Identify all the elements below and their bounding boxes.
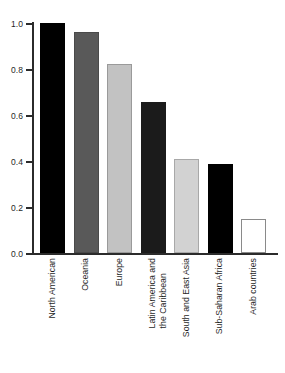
x-axis-label: Arab countries [248,258,259,315]
bar [208,164,233,253]
y-axis-tick: 0.2 [26,207,33,209]
x-axis-line [33,253,278,255]
y-axis-tick-label: 0.8 [11,66,23,75]
y-axis-tick-label: 0.4 [11,158,23,167]
bar [107,64,132,253]
bar [141,102,166,253]
bar [40,23,65,253]
bar [74,32,99,253]
x-axis-label: South and East Asia [181,258,192,337]
y-axis-tick: 0.6 [26,115,33,117]
y-axis-tick: 0.4 [26,161,33,163]
y-axis-tick: 0.0 [26,253,33,255]
bar-chart-figure: 1.00.80.60.40.20.0 North AmericanOceania… [0,0,285,373]
x-axis-label: Europe [114,258,125,286]
x-axis-label: Sub-Saharan Africa [214,258,225,334]
x-axis-label: Latin America and the Caribbean [147,258,168,328]
x-axis-label: Oceania [80,258,91,291]
y-axis-tick-label: 0.0 [11,250,23,259]
y-axis-tick-label: 0.2 [11,204,23,213]
plot-area [33,23,273,253]
bar [241,219,266,254]
x-axis-label: North American [47,258,58,319]
y-axis-tick-label: 1.0 [11,20,23,29]
y-axis-tick: 0.8 [26,69,33,71]
y-axis-tick: 1.0 [26,23,33,25]
y-axis-tick-label: 0.6 [11,112,23,121]
bar [174,159,199,253]
